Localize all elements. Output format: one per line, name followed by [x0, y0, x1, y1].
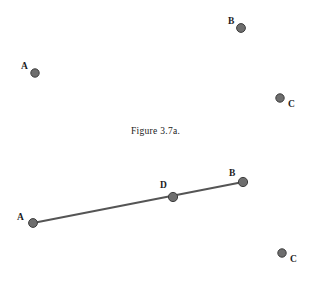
figure-caption: Figure 3.7a.: [0, 126, 311, 136]
segment-point-label-b: B: [229, 169, 236, 179]
point-label-b: B: [228, 17, 235, 27]
segment-panel: A D B C: [0, 145, 311, 284]
segment-point-label-d: D: [160, 181, 167, 191]
segment-point-label-c: C: [290, 255, 297, 265]
segment-point-marker-c: [278, 249, 286, 257]
point-label-a: A: [21, 62, 28, 72]
point-marker-c: [276, 94, 284, 102]
scattered-points-panel: A B C: [0, 0, 311, 120]
point-label-c: C: [288, 100, 295, 110]
segment-point-marker-b: [238, 177, 247, 186]
segment-point-label-a: A: [17, 213, 24, 223]
segment-point-marker-a: [29, 219, 38, 228]
point-marker-b: [237, 24, 246, 33]
figure-3-7a-illustration: A B C Figure 3.7a. A D B C: [0, 0, 311, 284]
segment-point-marker-d: [168, 192, 177, 201]
scattered-points-canvas: [0, 0, 311, 120]
segment-ab: [33, 182, 243, 223]
point-marker-a: [31, 69, 39, 77]
segment-canvas: [0, 145, 311, 284]
